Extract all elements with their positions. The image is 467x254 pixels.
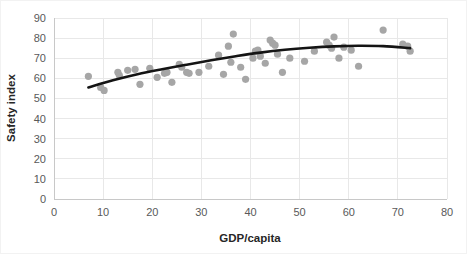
data-point [85, 73, 92, 80]
y-tick-label: 60 [34, 72, 46, 84]
data-point [101, 87, 108, 94]
y-axis-tick-labels: 0102030405060708090 [34, 12, 46, 205]
x-tick-label: 30 [195, 206, 207, 218]
x-tick-label: 10 [97, 206, 109, 218]
data-point [279, 69, 286, 76]
data-point [185, 70, 192, 77]
y-tick-label: 70 [34, 52, 46, 64]
data-point [348, 47, 355, 54]
x-tick-label: 40 [244, 206, 256, 218]
x-tick-label: 20 [146, 206, 158, 218]
scatter-chart: 0102030405060708090 01020304050607080 Sa… [0, 0, 467, 254]
chart-canvas: 0102030405060708090 01020304050607080 Sa… [0, 0, 467, 254]
y-tick-label: 40 [34, 113, 46, 125]
data-point [230, 30, 237, 37]
data-point [124, 67, 131, 74]
data-point [154, 74, 161, 81]
data-point [237, 64, 244, 71]
y-tick-label: 10 [34, 173, 46, 185]
y-tick-label: 20 [34, 153, 46, 165]
data-point [220, 71, 227, 78]
data-point [205, 63, 212, 70]
data-point [271, 42, 278, 49]
y-tick-label: 90 [34, 12, 46, 24]
data-point [301, 58, 308, 65]
data-point [242, 76, 249, 83]
data-point [335, 55, 342, 62]
data-point [227, 59, 234, 66]
x-tick-label: 70 [392, 206, 404, 218]
data-point [225, 43, 232, 50]
data-point [136, 81, 143, 88]
data-point [249, 55, 256, 62]
x-tick-label: 50 [294, 206, 306, 218]
data-point [262, 60, 269, 67]
data-point [131, 66, 138, 73]
x-tick-label: 0 [51, 206, 57, 218]
data-point [195, 69, 202, 76]
data-point [330, 34, 337, 41]
y-axis-title: Safety index [5, 74, 17, 142]
x-tick-label: 80 [441, 206, 453, 218]
x-axis-title: GDP/capita [219, 232, 281, 244]
data-points [85, 26, 414, 94]
y-tick-label: 80 [34, 32, 46, 44]
x-axis-tick-labels: 01020304050607080 [51, 206, 453, 218]
data-point [380, 26, 387, 33]
x-tick-label: 60 [343, 206, 355, 218]
y-tick-label: 0 [40, 193, 46, 205]
data-point [286, 55, 293, 62]
data-point [355, 63, 362, 70]
y-tick-label: 30 [34, 133, 46, 145]
data-point [168, 79, 175, 86]
y-tick-label: 50 [34, 92, 46, 104]
